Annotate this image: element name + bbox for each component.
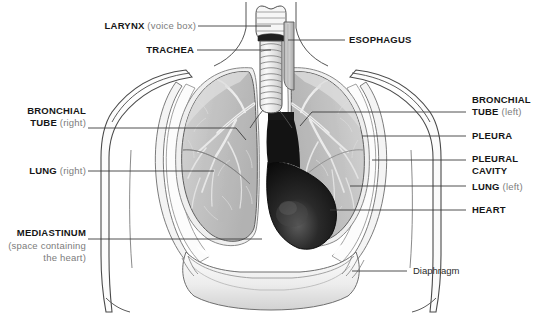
label-bronchial-tube-right-l1: BRONCHIAL	[27, 105, 86, 116]
label-mediastinum-l2: (space containing	[0, 240, 86, 253]
label-pleural-cavity-l1: PLEURAL	[472, 153, 518, 164]
label-pleural-cavity: PLEURAL CAVITY	[472, 153, 518, 176]
label-diaphragm: Diaphragm	[413, 265, 459, 277]
label-mediastinum: MEDIASTINUM (space containing the heart)	[0, 227, 86, 265]
label-heart: HEART	[472, 204, 506, 216]
label-larynx: LARYNX (voice box)	[96, 20, 196, 32]
label-lung-right: LUNG (right)	[0, 165, 86, 177]
label-pleural-cavity-l2: CAVITY	[472, 165, 518, 177]
label-lung-right-main: LUNG	[29, 165, 57, 176]
label-esophagus: ESOPHAGUS	[349, 34, 412, 46]
label-trachea-main: TRACHEA	[146, 44, 194, 55]
label-larynx-main: LARYNX	[105, 20, 145, 31]
anatomy-diagram: LARYNX (voice box) TRACHEA ESOPHAGUS BRO…	[0, 0, 540, 314]
label-lung-left: LUNG (left)	[472, 181, 523, 193]
label-lung-left-sub: (left)	[503, 181, 523, 192]
label-pleura: PLEURA	[472, 130, 512, 142]
label-bronchial-tube-left-l2: TUBE	[472, 106, 499, 117]
label-mediastinum-main: MEDIASTINUM	[17, 227, 86, 238]
esophagus	[284, 22, 294, 90]
label-heart-main: HEART	[472, 204, 506, 215]
label-esophagus-main: ESOPHAGUS	[349, 34, 412, 45]
label-pleura-main: PLEURA	[472, 130, 512, 141]
label-trachea: TRACHEA	[96, 44, 194, 56]
label-lung-left-main: LUNG	[472, 181, 500, 192]
label-lung-right-sub: (right)	[60, 165, 86, 176]
label-mediastinum-l3: the heart)	[0, 252, 86, 265]
label-bronchial-tube-left-l1: BRONCHIAL	[472, 94, 531, 105]
label-bronchial-tube-left: BRONCHIAL TUBE (left)	[472, 94, 531, 117]
label-diaphragm-main: Diaphragm	[413, 265, 459, 276]
label-bronchial-tube-right-sub: (right)	[60, 117, 86, 128]
label-bronchial-tube-right-l2: TUBE	[30, 117, 57, 128]
label-larynx-sub: (voice box)	[147, 20, 196, 31]
label-bronchial-tube-left-sub: (left)	[502, 106, 522, 117]
label-bronchial-tube-right: BRONCHIAL TUBE (right)	[0, 105, 86, 128]
